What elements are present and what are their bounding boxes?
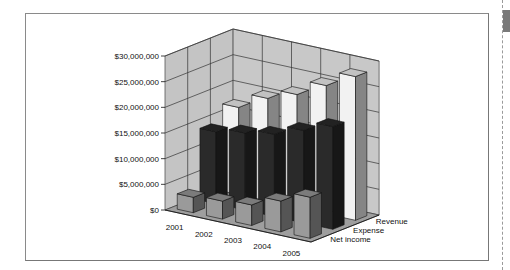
bar-net-income-2003 [236, 197, 263, 226]
x-tick-label: 2004 [253, 242, 271, 251]
bar-net-income-2004 [265, 193, 292, 232]
series-label: Net income [330, 235, 371, 244]
x-tick-label: 2001 [166, 223, 184, 232]
y-tick-label: $15,000,000 [115, 129, 160, 138]
bar-net-income-2005 [294, 189, 321, 238]
y-tick-label: $0 [150, 206, 159, 215]
bar-net-income-2002 [206, 193, 233, 219]
bar-expense-2001 [200, 124, 227, 204]
x-tick-label: 2005 [283, 249, 301, 258]
series-label: Revenue [376, 217, 409, 226]
x-tick-label: 2003 [224, 236, 242, 245]
x-tick-label: 2002 [195, 230, 213, 239]
y-tick-label: $25,000,000 [115, 78, 160, 87]
series-label: Expense [353, 226, 385, 235]
bar-net-income-2001 [177, 189, 204, 212]
y-tick-label: $10,000,000 [115, 155, 160, 164]
3d-column-chart: $0$5,000,000$10,000,000$15,000,000$20,00… [0, 0, 510, 270]
y-tick-label: $5,000,000 [119, 180, 160, 189]
y-tick-label: $20,000,000 [115, 103, 160, 112]
y-tick-label: $30,000,000 [115, 52, 160, 61]
